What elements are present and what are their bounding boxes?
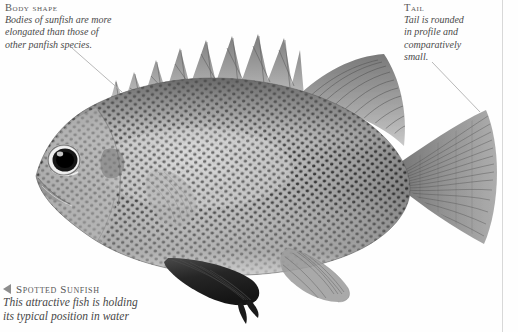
margin-rule xyxy=(502,0,503,332)
caption-text: This attractive fish is holding its typi… xyxy=(3,295,138,323)
figure-caption: Spotted Sunfish This attractive fish is … xyxy=(3,283,138,323)
callout-tail-line-4: small. xyxy=(404,51,464,63)
triangle-left-icon xyxy=(3,284,11,294)
fish-eye xyxy=(47,144,81,176)
callout-tail-line-3: comparatively xyxy=(404,39,464,51)
callout-body-shape-line-1: Bodies of sunfish are more xyxy=(5,14,111,26)
callout-tail: Tail Tail is rounded in profile and comp… xyxy=(404,2,464,63)
callout-body-shape-text: Bodies of sunfish are more elongated tha… xyxy=(5,14,111,51)
caption-line-1: This attractive fish is holding xyxy=(3,295,138,309)
callout-body-shape-heading: Body shape xyxy=(5,2,111,14)
callout-tail-heading: Tail xyxy=(404,2,464,14)
caption-heading-row: Spotted Sunfish xyxy=(3,283,138,295)
callout-body-shape-line-3: other panfish species. xyxy=(5,39,111,51)
caption-heading: Spotted Sunfish xyxy=(16,283,100,295)
callout-tail-line-2: in profile and xyxy=(404,26,464,38)
field-guide-page: Body shape Bodies of sunfish are more el… xyxy=(0,0,518,332)
callout-body-shape: Body shape Bodies of sunfish are more el… xyxy=(5,2,111,51)
caption-line-2: its typical position in water xyxy=(3,309,138,323)
callout-tail-line-1: Tail is rounded xyxy=(404,14,464,26)
callout-tail-text: Tail is rounded in profile and comparati… xyxy=(404,14,464,63)
caudal-fin xyxy=(398,110,497,244)
callout-body-shape-line-2: elongated than those of xyxy=(5,26,111,38)
